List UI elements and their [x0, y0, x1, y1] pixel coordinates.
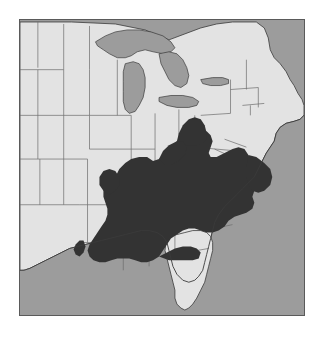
lake-ontario	[201, 78, 229, 86]
range-map-svg	[20, 20, 304, 315]
map-frame	[19, 19, 305, 316]
figure-container	[0, 0, 324, 337]
